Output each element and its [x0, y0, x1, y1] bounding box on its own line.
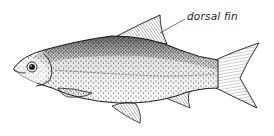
eye-icon	[27, 62, 37, 72]
caudal-fin	[216, 43, 259, 108]
dorsal-fin-label: dorsal fin	[187, 10, 238, 22]
label-leader-line	[160, 19, 185, 33]
pelvic-fin	[112, 102, 141, 123]
